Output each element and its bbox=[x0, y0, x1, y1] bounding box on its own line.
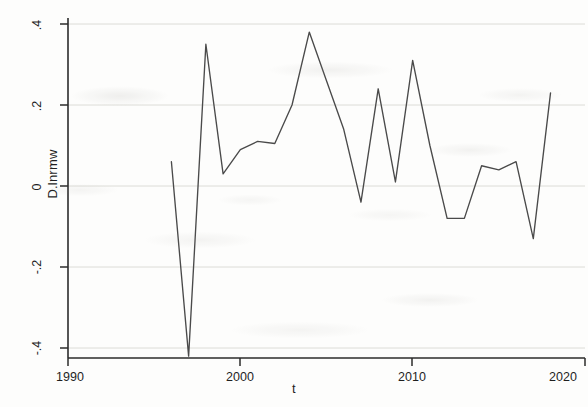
chart-figure: .4 .2 0 -.2 -.4 1990 2000 2010 2020 D.ln… bbox=[0, 0, 588, 407]
y-tick-label-3: -.2 bbox=[30, 252, 44, 282]
y-tick-label-2: 0 bbox=[30, 174, 44, 200]
data-series-line bbox=[171, 32, 550, 356]
gridlines bbox=[68, 24, 585, 348]
x-axis-title: t bbox=[0, 381, 588, 396]
chart-plot-area bbox=[0, 0, 588, 407]
y-tick-label-0: .4 bbox=[30, 12, 44, 38]
y-tick-label-1: .2 bbox=[30, 93, 44, 119]
y-tick-marks bbox=[60, 24, 68, 348]
y-tick-label-4: -.4 bbox=[30, 333, 44, 363]
x-tick-marks bbox=[68, 358, 585, 366]
y-axis-title: D.lnrmw bbox=[45, 129, 60, 219]
